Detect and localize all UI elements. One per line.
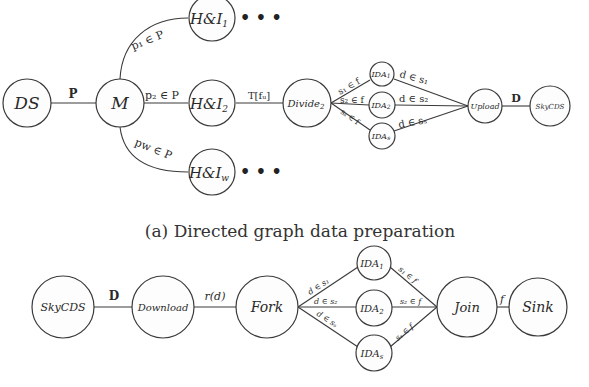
node-hiw: H&Iw: [188, 149, 235, 195]
node-ida1-a: IDA1: [370, 62, 394, 86]
edge-label-ida2-join: s₂ ∈ f: [400, 297, 423, 306]
edge-label-skycds-download: D: [109, 289, 119, 303]
node-download: Download: [132, 276, 194, 338]
svg-text:Download: Download: [137, 302, 189, 313]
ellipsis-hiw: • • •: [240, 162, 282, 181]
figure-b: D r(d) d ∈ s₁ d ∈ s₂ d ∈ sₛ s₁ ∈ f s₂ ∈ …: [32, 246, 567, 371]
node-skycds-b: SkyCDS: [32, 276, 94, 338]
edge-label-download-fork: r(d): [205, 290, 226, 303]
edge-label-divide-ida1: s₁ ∈ f: [336, 76, 362, 97]
edge-label-upload-skycds: D: [511, 92, 521, 105]
svg-text:Sink: Sink: [522, 299, 554, 315]
node-hi2: H&I2: [189, 80, 235, 126]
figure-a: P p₁ ∈ P p₂ ∈ P pw ∈ P T[fᵤ] s₁ ∈ f s₂ ∈…: [3, 0, 570, 195]
edge-label-idas-upload: d ∈ sₛ: [397, 114, 427, 130]
edge-label-m-hi1: p₁ ∈ P: [129, 28, 166, 53]
edge-fork-idas: [298, 307, 358, 347]
node-join: Join: [437, 277, 497, 337]
edge-label-ida2-upload: d ∈ s₂: [399, 93, 428, 104]
node-upload: Upload: [468, 89, 502, 123]
svg-text:DS: DS: [13, 93, 39, 113]
node-ida1-b: IDA1: [357, 246, 391, 280]
node-idas-b: IDAs: [356, 335, 392, 371]
edge-label-m-hiw: pw ∈ P: [133, 136, 175, 163]
edge-label-divide-idas: sₛ ∈ f: [339, 107, 362, 127]
edge-ida2-upload: [395, 105, 468, 106]
node-idas-a: IDAs: [369, 123, 395, 149]
diagram-canvas: P p₁ ∈ P p₂ ∈ P pw ∈ P T[fᵤ] s₁ ∈ f s₂ ∈…: [0, 0, 589, 387]
node-sink: Sink: [509, 278, 567, 336]
edge-label-hi2-divide: T[fᵤ]: [248, 90, 270, 101]
ellipsis-hi1: • • •: [240, 8, 282, 27]
node-ida2-a: IDA2: [369, 92, 395, 118]
edge-label-ds-m: P: [68, 87, 77, 101]
svg-text:SkyCDS: SkyCDS: [40, 301, 86, 314]
node-ds: DS: [3, 79, 51, 127]
caption-a: (a) Directed graph data preparation: [145, 221, 455, 241]
svg-text:Fork: Fork: [250, 299, 284, 315]
edge-m-hi1: [120, 18, 188, 79]
svg-text:IDAs: IDAs: [371, 132, 390, 141]
svg-text:Upload: Upload: [470, 102, 499, 111]
svg-text:Join: Join: [451, 300, 480, 315]
node-divide: Divide2: [283, 79, 331, 127]
svg-text:M: M: [110, 93, 129, 113]
edge-label-divide-ida2: s₂ ∈ f: [340, 95, 365, 105]
svg-text:SkyCDS: SkyCDS: [536, 103, 565, 111]
svg-text:IDA2: IDA2: [370, 101, 390, 110]
node-ida2-b: IDA2: [356, 290, 392, 326]
node-hi1: H&I1: [189, 0, 235, 41]
node-fork: Fork: [236, 276, 298, 338]
edge-label-join-sink: f: [499, 293, 506, 306]
node-skycds-a: SkyCDS: [530, 86, 570, 126]
node-m: M: [96, 79, 144, 127]
edge-label-idas-join: sₛ ∈ f: [394, 321, 417, 343]
svg-text:H&I1: H&I1: [189, 10, 228, 29]
edge-label-m-hi2: p₂ ∈ P: [145, 89, 180, 102]
edge-label-fork-ida2: d ∈ s₂: [314, 297, 337, 306]
svg-text:IDA1: IDA1: [370, 70, 390, 79]
edge-label-ida1-upload: d ∈ s₁: [398, 68, 429, 86]
